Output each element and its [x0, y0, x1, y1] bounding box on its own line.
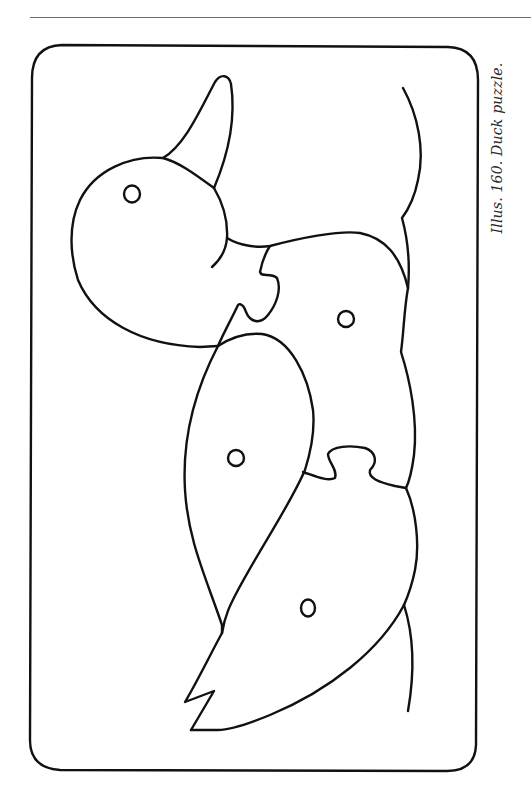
body-eye-hole [338, 311, 354, 327]
lower-body-outline [404, 488, 417, 605]
beak-outline [163, 76, 232, 188]
lower-wing-eye-hole [301, 600, 315, 617]
tail-right-outline [404, 605, 412, 711]
book-page: Illus. 160. Duck puzzle. [0, 0, 531, 811]
upper-wing-outline [218, 334, 314, 633]
head-right-outline [212, 188, 227, 267]
head-eye-hole [124, 186, 140, 203]
body-wing-joint [303, 446, 406, 488]
back-outline [402, 88, 421, 288]
puzzle-frame [30, 45, 478, 771]
wing-eye-hole [228, 450, 244, 466]
head-body-joint [218, 246, 279, 346]
chest-outline [401, 288, 415, 488]
head-outline [72, 158, 219, 347]
tail-zigzag [185, 633, 222, 730]
upper-wing-left-outline [185, 346, 222, 633]
caption-text: Illus. 160. Duck puzzle. [489, 63, 505, 234]
neck-top-outline [227, 232, 408, 288]
duck-puzzle-illustration [0, 0, 531, 811]
